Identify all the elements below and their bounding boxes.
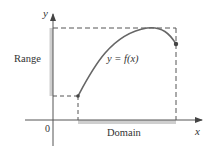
domain-bar [78,120,176,124]
range-bar [50,28,54,96]
range-label: Range [14,53,41,64]
right-endpoint [174,42,178,46]
domain-label: Domain [107,127,142,138]
left-endpoint [76,94,80,98]
origin-label: 0 [45,123,50,134]
domain-range-diagram: y x 0 Range Domain y = f(x) [0,0,214,149]
x-axis-label: x [194,125,200,137]
y-axis-label: y [42,7,48,19]
function-label: y = f(x) [106,53,139,65]
